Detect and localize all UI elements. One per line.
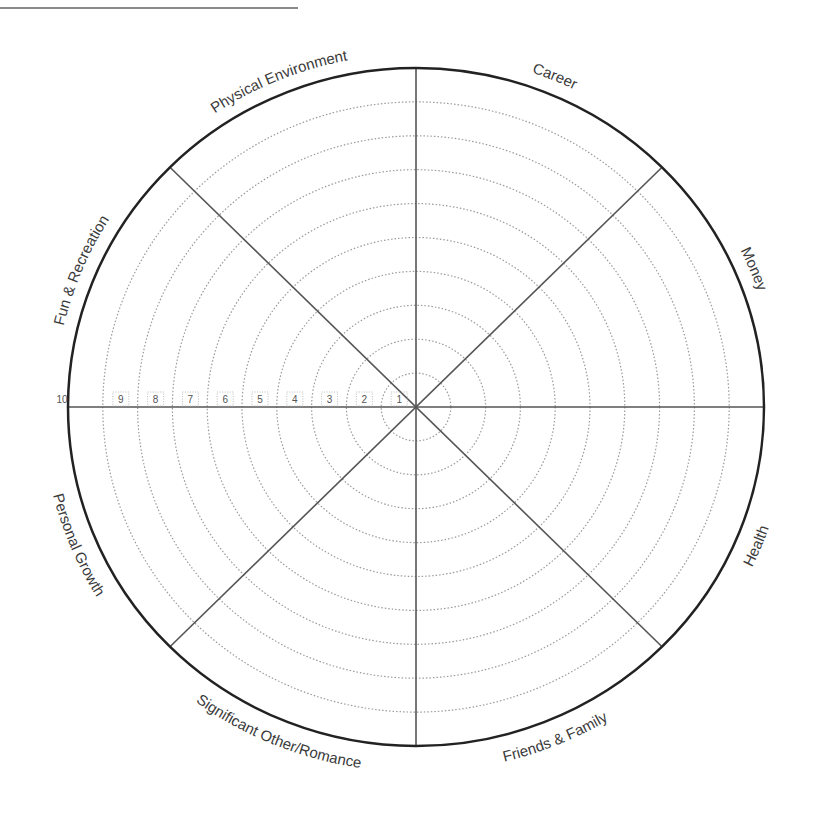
scale-tick-4: 4 [292,394,298,405]
segment-label-physical-environment: Physical Environment [207,46,349,116]
segment-label-health: Health [739,523,772,569]
scale-tick-8: 8 [153,394,159,405]
segment-label-personal-growth: Personal Growth [50,491,109,599]
scale-ticks: 12345678910 [56,392,407,406]
scale-tick-9: 9 [118,394,124,405]
segment-label-friends-family: Friends & Family [501,708,611,765]
scale-tick-2: 2 [362,394,368,405]
segment-label-career: Career [531,59,580,92]
life-wheel-diagram: 12345678910 CareerMoneyHealthFriends & F… [0,0,816,814]
scale-tick-3: 3 [327,394,333,405]
segment-labels: CareerMoneyHealthFriends & FamilySignifi… [50,46,772,771]
segment-label-fun-recreation: Fun & Recreation [50,212,112,327]
segment-label-money: Money [738,244,772,293]
segment-dividers [68,68,764,746]
scale-tick-6: 6 [222,394,228,405]
scale-tick-7: 7 [188,394,194,405]
scale-tick-5: 5 [257,394,263,405]
scale-tick-1: 1 [396,394,402,405]
scale-tick-10: 10 [56,394,68,405]
